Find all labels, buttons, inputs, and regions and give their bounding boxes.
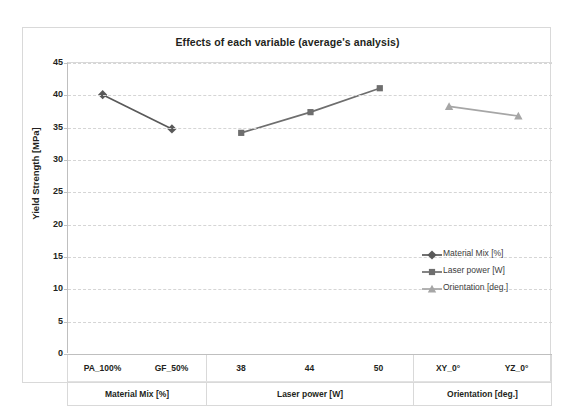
y-axis-tick-label: 30: [33, 154, 63, 164]
gridline: [68, 160, 552, 161]
legend-item-2[interactable]: Laser power [W]: [421, 261, 547, 278]
y-axis-tick-mark: [64, 128, 68, 129]
y-axis-tick-label: 35: [33, 122, 63, 132]
x-axis-category-label: 44: [275, 355, 344, 381]
series-lines-group: [68, 63, 553, 354]
y-axis-tick-label: 0: [33, 348, 63, 358]
y-axis-tick-mark: [64, 160, 68, 161]
y-axis-tick-label: 15: [33, 251, 63, 261]
y-axis-tick-labels: 454035302520151050: [33, 62, 63, 353]
x-axis-group-label: Laser power [W]: [206, 382, 413, 406]
y-axis-tick-mark: [64, 95, 68, 96]
square-marker: [377, 85, 383, 91]
series-line: [103, 95, 172, 129]
x-axis-group-row: Material Mix [%]Laser power [W]Orientati…: [68, 381, 551, 406]
series-line: [449, 106, 518, 116]
y-axis-tick-label: 5: [33, 316, 63, 326]
square-marker: [307, 109, 313, 115]
legend-item-label: Laser power [W]: [443, 265, 505, 275]
y-axis-tick-label: 20: [33, 219, 63, 229]
y-axis-tick-mark: [64, 63, 68, 64]
y-axis-tick-mark: [64, 257, 68, 258]
y-axis-tick-mark: [64, 192, 68, 193]
chart-frame: Effects of each variable (average's anal…: [22, 27, 551, 383]
gridline: [68, 128, 552, 129]
legend-diamond-marker-icon: [421, 247, 443, 259]
x-axis-category-label: 38: [206, 355, 275, 381]
square-marker: [429, 268, 435, 274]
gridline: [68, 63, 552, 64]
x-axis-group-label: Material Mix [%]: [68, 382, 206, 406]
y-axis-tick-label: 45: [33, 57, 63, 67]
diamond-marker: [167, 124, 176, 133]
x-axis-category-row: PA_100%GF_50%384450XY_0°YZ_0°: [68, 355, 551, 381]
legend-triangle-marker-icon: [421, 281, 443, 293]
legend-square-marker-icon: [421, 264, 443, 276]
x-axis-category-label: PA_100%: [68, 355, 137, 381]
gridline: [68, 225, 552, 226]
y-axis-tick-label: 10: [33, 283, 63, 293]
x-axis-table: PA_100%GF_50%384450XY_0°YZ_0° Material M…: [67, 355, 552, 406]
gridline: [68, 322, 552, 323]
chart-legend: Material Mix [%]Laser power [W]Orientati…: [421, 244, 547, 295]
gridline: [68, 192, 552, 193]
series-3: [445, 102, 523, 119]
gridline: [68, 95, 552, 96]
x-axis-group-label: Orientation [deg.]: [413, 382, 551, 406]
diamond-marker: [427, 250, 436, 259]
x-axis-category-label: YZ_0°: [482, 355, 551, 381]
y-axis-tick-mark: [64, 289, 68, 290]
y-axis-tick-mark: [64, 225, 68, 226]
legend-item-label: Material Mix [%]: [443, 248, 503, 258]
legend-item-3[interactable]: Orientation [deg.]: [421, 278, 547, 295]
square-marker: [238, 130, 244, 136]
legend-item-1[interactable]: Material Mix [%]: [421, 244, 547, 261]
chart-title: Effects of each variable (average's anal…: [23, 36, 552, 48]
y-axis-tick-label: 25: [33, 186, 63, 196]
y-axis-tick-label: 40: [33, 89, 63, 99]
x-axis-category-label: 50: [344, 355, 413, 381]
legend-item-label: Orientation [deg.]: [443, 282, 508, 292]
plot-area: [67, 62, 552, 353]
x-axis-category-label: XY_0°: [413, 355, 482, 381]
y-axis-tick-mark: [64, 322, 68, 323]
x-axis-category-label: GF_50%: [137, 355, 206, 381]
